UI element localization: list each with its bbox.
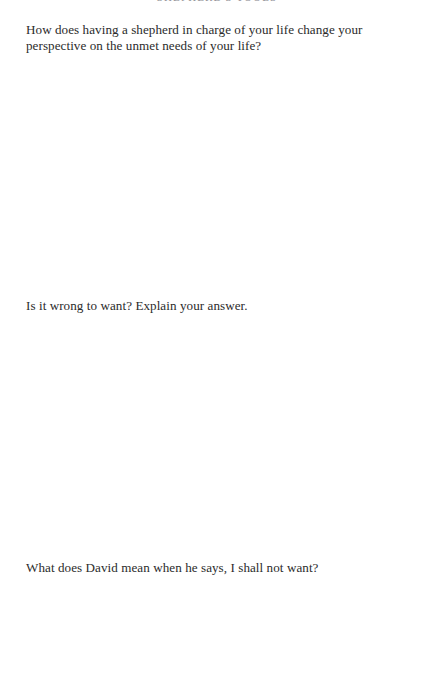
- answer-space-3[interactable]: [26, 582, 416, 672]
- answer-space-1[interactable]: [26, 60, 416, 292]
- question-1: How does having a shepherd in charge of …: [26, 22, 418, 55]
- question-2: Is it wrong to want? Explain your answer…: [26, 298, 326, 314]
- answer-space-2[interactable]: [26, 320, 416, 554]
- question-3: What does David mean when he says, I sha…: [26, 560, 406, 576]
- running-head: SHEPHERD'S TOOLS: [0, 0, 434, 3]
- document-page: SHEPHERD'S TOOLS How does having a sheph…: [0, 0, 434, 676]
